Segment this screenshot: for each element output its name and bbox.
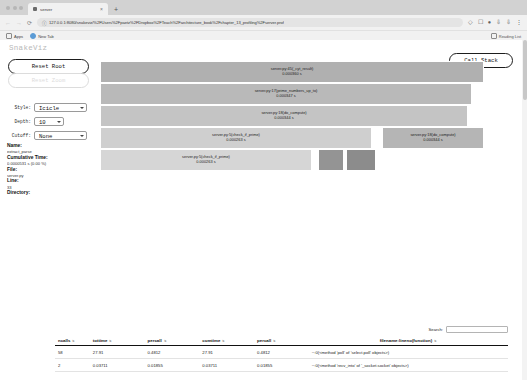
icicle-frame[interactable]: server.py:45(_cyt_result)0.000360 s bbox=[100, 61, 484, 83]
chevron-down-icon bbox=[80, 107, 84, 109]
column-header-tottime[interactable]: tottime⇅ bbox=[90, 336, 145, 346]
icicle-frame[interactable]: server.py:18(do_compute)0.000344 s bbox=[382, 127, 484, 149]
window-traffic-lights[interactable] bbox=[4, 0, 28, 15]
column-header-percall1[interactable]: percall⇅ bbox=[145, 336, 200, 346]
tab-favicon-icon bbox=[33, 7, 37, 11]
page-title: SnakeViz bbox=[9, 44, 47, 52]
column-header-label: filename:lineno(function) bbox=[380, 338, 432, 343]
cell-tottime: 0.03711 bbox=[90, 359, 145, 372]
bookmark-new-tab[interactable]: New Tab bbox=[30, 33, 54, 39]
cutoff-label: Cutoff: bbox=[7, 133, 31, 138]
cell-ncalls: 2 bbox=[55, 359, 90, 372]
cell-percall2: 0.4812 bbox=[254, 346, 309, 359]
icicle-frame[interactable]: server.py:5(check_if_prime)0.000263 s bbox=[100, 127, 372, 149]
sort-arrow-icon: ⇅ bbox=[72, 339, 75, 343]
apps-icon bbox=[6, 33, 12, 39]
tab-title: server bbox=[40, 7, 97, 12]
extensions-icon[interactable]: ☐ bbox=[478, 20, 483, 26]
cutoff-select[interactable]: None bbox=[34, 131, 87, 140]
sort-arrow-icon: ⇅ bbox=[222, 339, 225, 343]
icicle-frame-time: 0.000347 s bbox=[276, 94, 295, 99]
style-select[interactable]: Icicle bbox=[34, 103, 87, 112]
menu-icon[interactable]: ⋮ bbox=[516, 20, 522, 26]
cell-percall2: 0.01855 bbox=[254, 359, 309, 372]
table-search: Search: bbox=[55, 326, 508, 333]
search-input[interactable] bbox=[446, 326, 508, 333]
icicle-frame[interactable] bbox=[346, 149, 376, 171]
reading-list-button[interactable]: Reading List bbox=[491, 33, 521, 39]
cutoff-control: Cutoff: None bbox=[7, 131, 87, 140]
newtab-icon bbox=[30, 33, 36, 39]
icicle-chart: server.py:45(_cyt_result)0.000360 sserve… bbox=[100, 61, 500, 236]
icicle-frame[interactable]: server.py:5(check_if_prime)0.000263 s bbox=[100, 149, 312, 171]
tab-close-icon[interactable]: × bbox=[100, 7, 103, 12]
column-header-ncalls[interactable]: ncalls⇅ bbox=[55, 336, 90, 346]
cell-percall1: 0.4812 bbox=[145, 346, 200, 359]
style-control: Style: Icicle bbox=[7, 103, 87, 112]
reset-zoom-button: Reset Zoom bbox=[8, 73, 89, 88]
cell-cumtime: 27.91 bbox=[199, 346, 254, 359]
browser-tab[interactable]: server × bbox=[28, 3, 108, 15]
icicle-frame[interactable]: server.py:17(prime_numbers_up_to)0.00034… bbox=[100, 83, 472, 105]
column-header-label: percall bbox=[257, 338, 271, 343]
toolbar-icons: ◇ ☐ ● ⇩ ⇩ ⋮ bbox=[468, 20, 522, 26]
address-bar[interactable]: ⓘ 127.0.0.1:8080/snakeviz/%2FUsers%2Fpae… bbox=[37, 18, 463, 28]
frame-info-panel: Name: extract_parse Cumulative Time: 0.0… bbox=[7, 143, 89, 196]
stats-table: ncalls⇅tottime⇅percall⇅cumtime⇅percall⇅f… bbox=[55, 336, 508, 372]
cell-cumtime: 0.03711 bbox=[199, 359, 254, 372]
cell-filename: ~:0(<method 'poll' of 'select.poll' obje… bbox=[309, 346, 508, 359]
style-select-value: Icicle bbox=[39, 105, 59, 112]
close-window-icon[interactable] bbox=[6, 6, 10, 10]
sort-arrow-icon: ⇅ bbox=[273, 339, 276, 343]
cell-filename: ~:0(<method 'recv_into' of '_socket.sock… bbox=[309, 359, 508, 372]
install-icon[interactable]: ⇩ bbox=[506, 20, 511, 26]
table-row[interactable]: 20.037110.018550.037110.01855~:0(<method… bbox=[55, 359, 508, 372]
browser-window: server × + ← → ⟳ ⓘ 127.0.0.1:8080/snakev… bbox=[0, 0, 527, 380]
depth-label: Depth: bbox=[7, 119, 31, 124]
reset-root-button[interactable]: Reset Root bbox=[8, 59, 89, 74]
page-viewport: SnakeViz Reset Root Reset Zoom Call Stac… bbox=[0, 40, 527, 380]
depth-select-value: 10 bbox=[39, 119, 46, 126]
icicle-frame[interactable] bbox=[318, 149, 344, 171]
icicle-frame-time: 0.000263 s bbox=[196, 160, 215, 165]
column-header-label: ncalls bbox=[58, 338, 70, 343]
cell-ncalls: 58 bbox=[55, 346, 90, 359]
stats-table-section: Search: ncalls⇅tottime⇅percall⇅cumtime⇅p… bbox=[55, 326, 508, 372]
icicle-frame-time: 0.000360 s bbox=[282, 72, 301, 77]
column-header-label: cumtime bbox=[202, 338, 220, 343]
icicle-frame-time: 0.000263 s bbox=[226, 138, 245, 143]
page-scrollbar-thumb[interactable] bbox=[523, 40, 527, 100]
new-tab-button[interactable]: + bbox=[114, 6, 118, 15]
icicle-frame[interactable]: server.py:18(do_compute)0.000344 s bbox=[100, 105, 468, 127]
download-icon[interactable]: ⇩ bbox=[496, 20, 501, 26]
address-bar-url: 127.0.0.1:8080/snakeviz/%2FUsers%2Fpaetz… bbox=[49, 20, 284, 25]
search-label: Search: bbox=[429, 327, 443, 332]
table-row[interactable]: 5827.910.481227.910.4812~:0(<method 'pol… bbox=[55, 346, 508, 359]
maximize-window-icon[interactable] bbox=[19, 6, 23, 10]
depth-select[interactable]: 10 bbox=[34, 117, 64, 126]
bookmark-apps[interactable]: Apps bbox=[6, 33, 23, 39]
column-header-cumtime[interactable]: cumtime⇅ bbox=[199, 336, 254, 346]
browser-toolbar: ← → ⟳ ⓘ 127.0.0.1:8080/snakeviz/%2FUsers… bbox=[0, 15, 527, 30]
icicle-frame-time: 0.000344 s bbox=[423, 138, 442, 143]
info-directory-key: Directory: bbox=[7, 190, 89, 196]
site-info-icon[interactable]: ⓘ bbox=[42, 20, 46, 26]
cutoff-select-value: None bbox=[39, 133, 52, 140]
minimize-window-icon[interactable] bbox=[13, 6, 17, 10]
chevron-down-icon bbox=[57, 121, 61, 123]
style-label: Style: bbox=[7, 105, 31, 110]
profile-icon[interactable]: ● bbox=[488, 20, 491, 26]
column-header-percall2[interactable]: percall⇅ bbox=[254, 336, 309, 346]
bookmark-label: New Tab bbox=[38, 34, 54, 39]
snakeviz-app: SnakeViz Reset Root Reset Zoom Call Stac… bbox=[0, 40, 522, 380]
column-header-filename[interactable]: filename:lineno(function)⇅ bbox=[309, 336, 508, 346]
page-scrollbar[interactable] bbox=[522, 40, 527, 380]
share-icon[interactable]: ◇ bbox=[468, 20, 473, 26]
forward-icon[interactable]: → bbox=[16, 20, 22, 26]
reload-icon[interactable]: ⟳ bbox=[27, 20, 32, 26]
back-icon[interactable]: ← bbox=[5, 20, 11, 26]
depth-control: Depth: 10 bbox=[7, 117, 64, 126]
chevron-down-icon bbox=[80, 135, 84, 137]
sort-arrow-icon: ⇅ bbox=[164, 339, 167, 343]
column-header-label: tottime bbox=[93, 338, 108, 343]
